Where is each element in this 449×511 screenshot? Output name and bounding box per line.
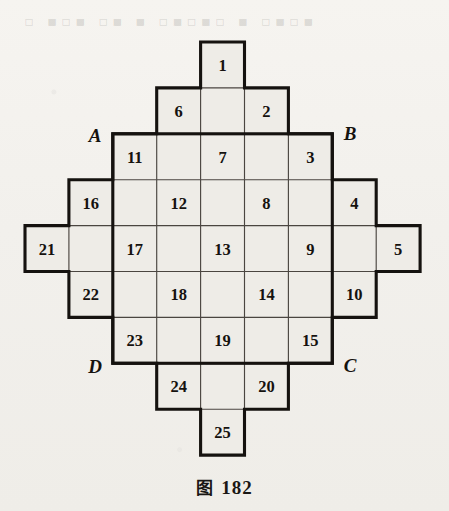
aztec-diamond-figure: 1621173161284211713952218141023191524202… <box>0 0 449 511</box>
cell-number-14: 14 <box>258 285 275 304</box>
cell-number-9: 9 <box>306 240 314 259</box>
cell-number-21: 21 <box>39 240 56 259</box>
cell-number-3: 3 <box>306 148 314 167</box>
cell-number-16: 16 <box>83 194 100 213</box>
corner-label-b: B <box>343 123 357 144</box>
cell-number-18: 18 <box>170 285 187 304</box>
caption-prefix: 图 <box>196 478 214 498</box>
cell-number-19: 19 <box>214 331 231 350</box>
cell-number-11: 11 <box>127 148 143 167</box>
cell-number-25: 25 <box>214 423 231 442</box>
corner-label-d: D <box>87 356 102 377</box>
corner-label-a: A <box>88 125 102 146</box>
caption-number: 182 <box>221 477 253 498</box>
cell-number-23: 23 <box>127 331 144 350</box>
cell-number-20: 20 <box>258 377 275 396</box>
cell-number-5: 5 <box>394 240 402 259</box>
cell-number-15: 15 <box>302 331 319 350</box>
cell-number-17: 17 <box>127 240 144 259</box>
cell-number-12: 12 <box>170 194 187 213</box>
cell-number-6: 6 <box>175 102 183 121</box>
corner-label-c: C <box>344 355 357 376</box>
cell-number-10: 10 <box>346 285 363 304</box>
figure-caption: 图 182 <box>0 474 449 499</box>
cell-number-7: 7 <box>218 148 226 167</box>
cell-number-13: 13 <box>214 240 231 259</box>
cell-number-24: 24 <box>170 377 187 396</box>
cell-number-4: 4 <box>350 194 358 213</box>
figure-svg: 1621173161284211713952218141023191524202… <box>0 0 449 511</box>
cell-number-8: 8 <box>262 194 270 213</box>
cell-number-1: 1 <box>218 56 226 75</box>
cell-number-22: 22 <box>83 285 100 304</box>
cell-number-2: 2 <box>262 102 270 121</box>
